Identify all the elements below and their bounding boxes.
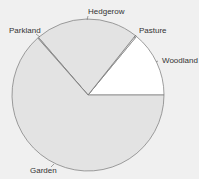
label-hedgerow: Hedgerow [88,7,125,16]
pie-chart: Hedgerow Pasture Woodland Parkland Garde… [0,0,199,179]
label-parkland: Parkland [9,26,41,35]
label-pasture: Pasture [139,26,167,35]
label-woodland: Woodland [162,56,198,65]
label-garden: Garden [30,166,57,175]
pie-slices [12,19,164,171]
